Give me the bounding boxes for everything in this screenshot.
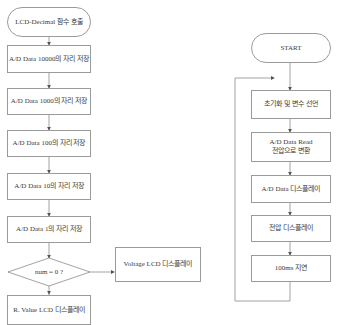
right-step-read: A/D Data Read 전압으로 변환 bbox=[251, 132, 331, 162]
right-step-read-label-2: 전압으로 변환 bbox=[272, 147, 310, 156]
left-step-5: A/D Data 1의 자리 저장 bbox=[7, 216, 91, 243]
right-step-init: 초기화 및 변수 선언 bbox=[251, 90, 331, 119]
left-step-1-label: A/D Data 10000의 자리 저장 bbox=[9, 55, 89, 64]
left-start-terminal: LCD-Decimal 함수 호출 bbox=[7, 7, 91, 37]
left-step-2-label: A/D Data 1000의 자리 저장 bbox=[11, 97, 87, 106]
right-step-voltage-display: 전압 디스플레이 bbox=[251, 215, 331, 242]
right-start-label: START bbox=[280, 44, 301, 53]
left-step-3: A/D Data 100의 자리 저장 bbox=[7, 130, 91, 157]
left-step-1: A/D Data 10000의 자리 저장 bbox=[7, 45, 91, 73]
voltage-display-label: Voltage LCD 디스플레이 bbox=[124, 260, 193, 269]
left-start-label: LCD-Decimal 함수 호출 bbox=[15, 18, 83, 27]
decision-label: num = 0 ? bbox=[20, 268, 78, 276]
rvalue-display-box: R. Value LCD 디스플레이 bbox=[7, 295, 91, 325]
left-step-2: A/D Data 1000의 자리 저장 bbox=[7, 88, 91, 115]
voltage-display-box: Voltage LCD 디스플레이 bbox=[115, 247, 201, 282]
left-step-5-label: A/D Data 1의 자리 저장 bbox=[16, 225, 82, 234]
left-step-4-label: A/D Data 10의 자리 저장 bbox=[14, 182, 83, 191]
left-step-4: A/D Data 10의 자리 저장 bbox=[7, 173, 91, 200]
right-step-voltage-display-label: 전압 디스플레이 bbox=[269, 224, 313, 233]
right-step-delay: 100ms 지연 bbox=[251, 255, 331, 282]
rvalue-display-label: R. Value LCD 디스플레이 bbox=[13, 306, 84, 315]
right-step-read-label-1: A/D Data Read bbox=[269, 138, 312, 147]
right-step-ad-display-label: A/D Data 디스플레이 bbox=[262, 185, 321, 194]
left-step-3-label: A/D Data 100의 자리 저장 bbox=[13, 139, 86, 148]
right-start-terminal: START bbox=[251, 33, 331, 63]
right-step-ad-display: A/D Data 디스플레이 bbox=[251, 175, 331, 203]
right-step-init-label: 초기화 및 변수 선언 bbox=[264, 100, 317, 109]
right-step-delay-label: 100ms 지연 bbox=[275, 264, 307, 273]
